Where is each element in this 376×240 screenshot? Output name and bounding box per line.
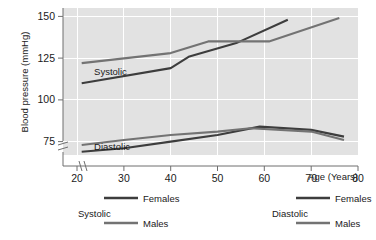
chart-canvas: 75100125150 20304050607080 Systolic Dias… [0, 0, 376, 240]
y-tick-label: 100 [37, 93, 55, 105]
y-tick-label: 150 [37, 10, 55, 22]
y-tick-label: 75 [43, 135, 55, 147]
x-tick-label: 30 [118, 172, 130, 184]
x-tick-label: 60 [258, 172, 270, 184]
x-axis-title: Age (Years) [308, 171, 358, 182]
x-tick-label: 50 [212, 172, 224, 184]
y-axis-title: Blood pressure (mmHg) [19, 32, 30, 133]
blood-pressure-age-chart: 75100125150 20304050607080 Systolic Dias… [0, 0, 376, 240]
y-tick-group: 75100125150 [37, 10, 63, 147]
legend-label-systolic-females: Females [143, 193, 180, 204]
x-tick-label: 20 [71, 172, 83, 184]
x-tick-label: 40 [165, 172, 177, 184]
y-tick-label: 125 [37, 52, 55, 64]
legend-group-title-systolic: Systolic [78, 208, 111, 219]
inplot-label-diastolic: Diastolic [94, 141, 130, 152]
legend: SystolicFemalesMalesDiastolicFemalesMale… [78, 193, 372, 229]
legend-label-diastolic-males: Males [335, 218, 361, 229]
legend-group-title-diastolic: Diastolic [272, 208, 308, 219]
legend-label-systolic-males: Males [143, 218, 169, 229]
legend-label-diastolic-females: Females [335, 193, 372, 204]
inplot-label-systolic: Systolic [94, 66, 127, 77]
chart-svg: 75100125150 20304050607080 Systolic Dias… [0, 0, 376, 240]
